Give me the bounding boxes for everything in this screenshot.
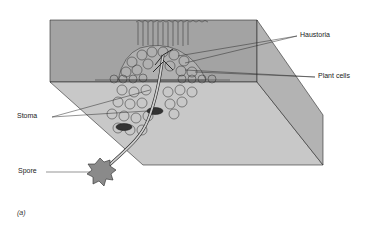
stoma (116, 124, 132, 131)
haustoria-label: Haustoria (300, 31, 330, 38)
stoma-label: Stoma (17, 112, 37, 119)
spore-label: Spore (18, 167, 37, 174)
figure-caption: (a) (17, 209, 26, 216)
plant-cells-label: Plant cells (318, 72, 350, 79)
